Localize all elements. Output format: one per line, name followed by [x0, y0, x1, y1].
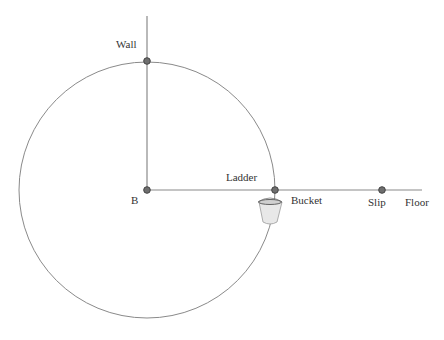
diagram-canvas: Wall B Ladder Bucket Slip Floor	[0, 0, 444, 340]
diagram-svg	[0, 0, 444, 340]
ladder-point[interactable]	[272, 187, 279, 194]
ladder-label: Ladder	[226, 172, 257, 183]
wall-point[interactable]	[144, 58, 151, 65]
floor-label: Floor	[405, 197, 429, 208]
bucket-label: Bucket	[291, 195, 322, 206]
slip-label: Slip	[368, 197, 386, 208]
base-label: B	[131, 195, 138, 206]
bucket-icon	[258, 198, 282, 224]
wall-label: Wall	[116, 39, 137, 50]
base-point[interactable]	[144, 187, 151, 194]
slip-point[interactable]	[379, 187, 386, 194]
